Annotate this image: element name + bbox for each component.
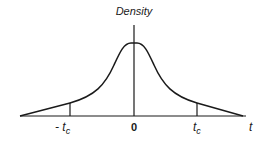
tc-label: tc bbox=[193, 120, 201, 136]
t-distribution-diagram: Density - tc 0 tc t bbox=[0, 0, 266, 145]
density-curve bbox=[20, 43, 243, 116]
density-label: Density bbox=[116, 5, 154, 17]
neg-tc-label: - tc bbox=[55, 120, 71, 136]
zero-label: 0 bbox=[131, 121, 137, 133]
t-axis-label: t bbox=[249, 120, 253, 134]
